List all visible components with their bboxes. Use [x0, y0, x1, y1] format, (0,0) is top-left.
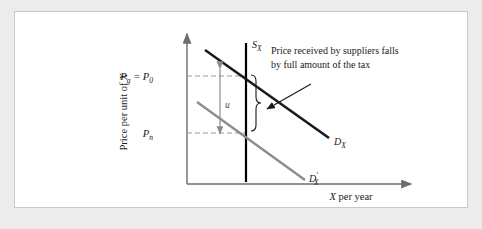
figure-panel: u Price received by suppliers falls by f…: [14, 11, 468, 208]
annotation-line-2: by full amount of the tax: [271, 59, 370, 70]
supply-curve-label: SX: [252, 39, 262, 53]
net-price-label: Pn: [142, 128, 153, 142]
gross-price-zero-subscript: 0: [149, 76, 153, 85]
y-axis-title-X: X: [118, 73, 129, 81]
demand-label-subscript: X: [340, 141, 346, 150]
y-axis-title-text: Price per unit of: [118, 80, 129, 151]
supply-demand-tax-chart: u Price received by suppliers falls by f…: [15, 12, 467, 207]
tax-wedge-label: u: [225, 100, 230, 110]
gross-price-equals: = P: [131, 71, 150, 82]
x-axis-title: X per year: [328, 191, 373, 202]
demand-curve-DX-prime: [197, 102, 305, 180]
demand-curve-label: DX: [333, 136, 346, 150]
supply-label-subscript: X: [256, 44, 262, 53]
demand-prime-label-subscript: X: [313, 178, 319, 187]
x-axis-title-rest: per year: [336, 191, 373, 202]
y-axis-title: Price per unit of X: [118, 73, 129, 151]
net-price-subscript: n: [149, 133, 153, 142]
figure-frame: u Price received by suppliers falls by f…: [0, 0, 482, 229]
annotation-arrow: [267, 84, 311, 109]
annotation-line-1: Price received by suppliers falls: [271, 45, 399, 56]
